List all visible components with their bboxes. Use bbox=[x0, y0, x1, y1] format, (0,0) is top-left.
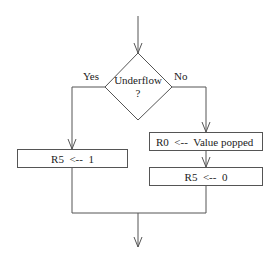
process-box-text: R0 <-- Value popped bbox=[156, 136, 253, 148]
pop-to-set-connector bbox=[202, 151, 210, 167]
decision-question-mark: ? bbox=[108, 87, 168, 100]
no-branch-label: No bbox=[174, 70, 187, 82]
no-branch-connector bbox=[172, 87, 210, 132]
yes-branch-connector bbox=[68, 87, 105, 149]
entry-arrow bbox=[134, 16, 142, 53]
process-box-set-r5-zero: R5 <-- 0 bbox=[149, 167, 263, 186]
decision-question: Underflow bbox=[108, 74, 168, 87]
process-box-pop-value: R0 <-- Value popped bbox=[149, 132, 263, 151]
yes-branch-label: Yes bbox=[83, 70, 99, 82]
exit-arrow bbox=[134, 213, 142, 247]
process-box-text: R5 <-- 0 bbox=[185, 171, 228, 183]
decision-label: Underflow ? bbox=[108, 74, 168, 100]
process-box-set-r5-one: R5 <-- 1 bbox=[17, 149, 128, 168]
flowchart-connectors bbox=[0, 0, 275, 258]
process-box-text: R5 <-- 1 bbox=[51, 153, 94, 165]
